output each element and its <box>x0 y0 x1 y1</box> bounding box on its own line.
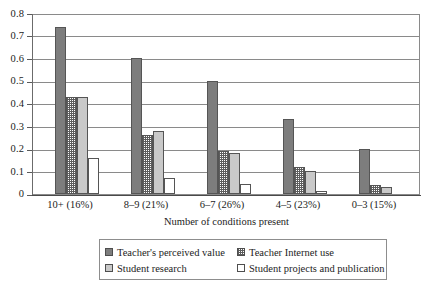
bar-series3 <box>381 187 392 194</box>
bar-series4 <box>240 184 251 194</box>
bar-series2 <box>370 185 381 194</box>
legend-item-teacher-internet-use: Teacher Internet use <box>237 247 383 258</box>
bar-series2 <box>66 97 77 194</box>
legend-label: Student research <box>117 263 187 274</box>
bar-group <box>55 13 101 194</box>
bar-series2 <box>142 135 153 194</box>
x-tick-label: 0–3 (15%) <box>327 199 421 211</box>
y-tick-label: 0.1 <box>11 167 24 177</box>
legend-label: Teacher's perceived value <box>117 247 225 258</box>
legend-swatch-dark-gray-icon <box>105 248 113 256</box>
y-tick-label: 0.4 <box>11 99 24 109</box>
x-axis-title: Number of conditions present <box>32 216 421 227</box>
bar-series4 <box>164 178 175 194</box>
bar-series1 <box>207 81 218 194</box>
bar-group <box>283 13 329 194</box>
y-tick-label: 0.5 <box>11 76 24 86</box>
legend-item-student-projects-and-publication: Student projects and publication <box>237 263 383 274</box>
y-tick-label: 0 <box>19 189 24 199</box>
bar-series1 <box>55 27 66 194</box>
bar-series4 <box>316 191 327 194</box>
legend-item-student-research: Student research <box>105 263 237 274</box>
bar-group <box>131 13 177 194</box>
bar-series2 <box>218 151 229 194</box>
bar-series1 <box>131 58 142 194</box>
bar-series1 <box>283 119 294 194</box>
bar-series3 <box>77 97 88 194</box>
legend-swatch-checkered-icon <box>237 248 245 256</box>
bar-series2 <box>294 167 305 194</box>
y-tick-label: 0.3 <box>11 122 24 132</box>
y-tick-label: 0.8 <box>11 9 24 19</box>
bar-series3 <box>305 171 316 194</box>
x-axis-line <box>32 195 421 196</box>
chart-legend: Teacher's perceived value Teacher Intern… <box>99 239 387 280</box>
y-axis-line <box>32 14 33 196</box>
legend-swatch-light-gray-icon <box>105 264 113 272</box>
bar-series3 <box>153 131 164 194</box>
legend-label: Teacher Internet use <box>249 247 334 258</box>
bar-chart-figure: 0.8 0.7 0.6 0.5 0.4 0.3 0.2 0.1 0 <box>0 0 431 287</box>
legend-swatch-white-outline-icon <box>237 264 245 272</box>
y-tick-label: 0.7 <box>11 31 24 41</box>
plot-area <box>32 14 420 195</box>
y-tick-label: 0.6 <box>11 54 24 64</box>
legend-item-teachers-perceived-value: Teacher's perceived value <box>105 247 237 258</box>
bar-group <box>359 13 405 194</box>
y-tick-label: 0.2 <box>11 144 24 154</box>
legend-label: Student projects and publication <box>249 263 385 274</box>
bar-series3 <box>229 153 240 194</box>
bar-series4 <box>88 158 99 194</box>
bar-group <box>207 13 253 194</box>
bar-series1 <box>359 149 370 194</box>
